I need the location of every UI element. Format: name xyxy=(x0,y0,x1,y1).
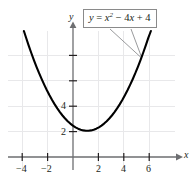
parabola-graph-figure: y = x2 − 4x + 4 y x −4 −2 2 4 6 2 4 xyxy=(0,0,194,182)
x-axis xyxy=(8,154,183,161)
equation-term3: + 4 xyxy=(134,12,150,23)
x-tick-label-4: 4 xyxy=(121,164,126,174)
grid-lines xyxy=(8,31,175,170)
x-tick-label--4: −4 xyxy=(16,164,27,174)
x-tick-label-2: 2 xyxy=(96,164,101,174)
equation-term2: − 4 xyxy=(113,12,129,23)
y-axis-label: y xyxy=(69,12,73,22)
callout-leader-lines xyxy=(110,29,142,57)
y-tick-label-2: 2 xyxy=(61,127,66,137)
x-axis-label: x xyxy=(184,150,188,160)
y-axis xyxy=(70,22,77,171)
equation-equals: = xyxy=(94,12,105,23)
equation-callout-box: y = x2 − 4x + 4 xyxy=(83,9,157,28)
y-tick-label-4: 4 xyxy=(61,101,66,111)
x-tick-label--2: −2 xyxy=(41,164,52,174)
x-tick-label-6: 6 xyxy=(146,164,151,174)
